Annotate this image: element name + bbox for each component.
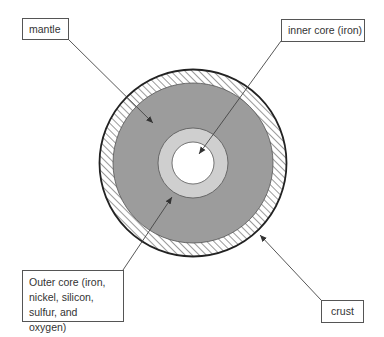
crust-label: crust: [321, 300, 364, 323]
inner-core-label: inner core (iron): [281, 19, 365, 42]
mantle-arrow: [68, 39, 153, 123]
mantle-label: mantle: [22, 18, 69, 40]
crust-arrow: [260, 235, 321, 300]
outer-core-label: Outer core (iron, nickel, silicon, sulfu…: [22, 270, 124, 322]
inner-core-layer: [172, 142, 214, 184]
